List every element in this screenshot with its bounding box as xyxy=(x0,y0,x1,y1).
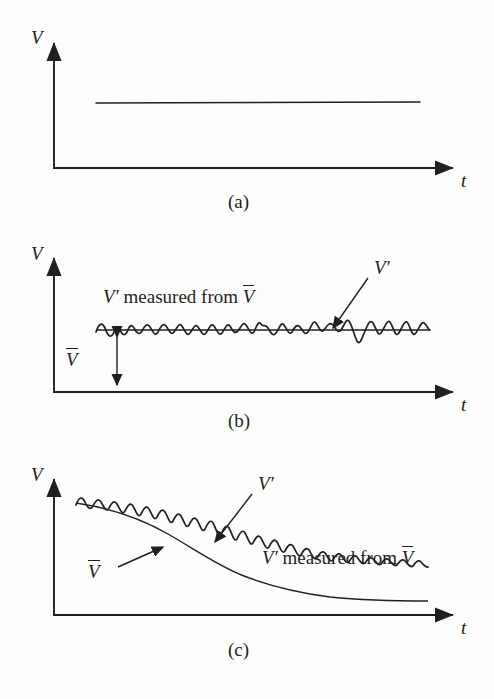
panel-c: V t V′ V V′ measured from V (c) xyxy=(0,450,494,699)
panel-a-constant-velocity-line xyxy=(96,102,420,103)
panel-c-measured-from-note: V′ measured from V xyxy=(262,546,413,567)
panel-b-caption: (b) xyxy=(228,411,250,430)
panel-b-v-axis-label: V xyxy=(31,244,43,263)
panel-c-plot xyxy=(0,450,494,699)
panel-c-fluctuation-label: V′ xyxy=(258,474,274,493)
panel-a-v-axis-label: V xyxy=(31,28,43,47)
panel-b-measured-from-note: V′ measured from V xyxy=(103,285,254,306)
panel-b-velocity-trace xyxy=(96,320,430,342)
panel-c-mean-leader xyxy=(118,547,163,567)
panel-c-caption: (c) xyxy=(228,640,249,659)
panel-c-t-axis-label: t xyxy=(461,618,466,637)
panel-a-t-axis-label: t xyxy=(461,171,466,190)
panel-b-fluctuation-label: V′ xyxy=(374,258,390,277)
panel-a: V t (a) xyxy=(0,0,494,233)
panel-b: V t V V′ V′ measured from V (b) xyxy=(0,233,494,450)
panel-c-mean-label: V xyxy=(88,560,100,581)
panel-b-t-axis-label: t xyxy=(461,395,466,414)
panel-b-mean-label: V xyxy=(66,348,78,369)
panel-b-fluctuation-leader xyxy=(333,278,368,328)
panel-a-caption: (a) xyxy=(228,192,249,211)
turbulence-velocity-figure: V t (a) V xyxy=(0,0,494,699)
panel-c-v-axis-label: V xyxy=(31,465,43,484)
